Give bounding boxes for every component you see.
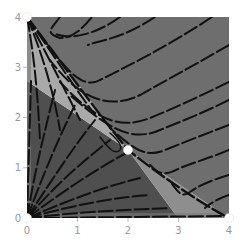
x-tick-2: 2 bbox=[125, 225, 131, 236]
equilibrium-origin bbox=[23, 214, 32, 223]
x-tick-labels: 0 1 2 3 4 bbox=[24, 225, 232, 236]
plot-area bbox=[27, 17, 229, 218]
equilibrium-y-axis bbox=[23, 13, 32, 22]
x-tick-3: 3 bbox=[175, 225, 181, 236]
x-tick-0: 0 bbox=[24, 225, 30, 236]
y-tick-3: 3 bbox=[15, 62, 21, 73]
y-tick-0: 0 bbox=[15, 213, 21, 224]
x-tick-4: 4 bbox=[226, 225, 232, 236]
y-tick-2: 2 bbox=[15, 112, 21, 123]
phase-portrait-figure: 0 1 2 3 4 0 1 2 3 4 bbox=[0, 0, 246, 248]
y-tick-4: 4 bbox=[15, 12, 21, 23]
y-axis bbox=[23, 17, 27, 218]
y-tick-labels: 0 1 2 3 4 bbox=[15, 12, 21, 224]
x-tick-1: 1 bbox=[74, 225, 80, 236]
x-axis bbox=[27, 218, 229, 222]
y-tick-1: 1 bbox=[15, 162, 21, 173]
equilibrium-x-axis bbox=[225, 214, 234, 223]
equilibrium-saddle bbox=[124, 146, 133, 155]
